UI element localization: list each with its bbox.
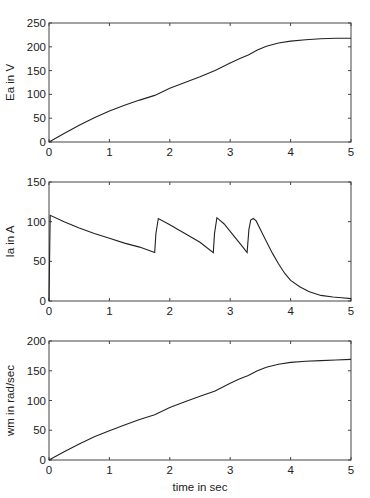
plot-ia: 012345050100150Ia in A: [4, 176, 354, 317]
x-tick-label: 3: [227, 305, 233, 317]
x-tick-label: 1: [106, 464, 112, 476]
plot-wm: 012345050100150200wm in rad/sec: [4, 335, 354, 476]
y-tick-label: 150: [27, 365, 46, 377]
plot-frame: [49, 341, 351, 460]
x-tick-label: 2: [167, 305, 173, 317]
y-tick-label: 250: [27, 17, 46, 29]
y-axis-label: Ia in A: [4, 225, 16, 257]
x-tick-label: 3: [227, 146, 233, 158]
y-tick-label: 150: [27, 65, 46, 77]
x-tick-label: 0: [46, 146, 52, 158]
y-tick-label: 50: [33, 255, 46, 267]
y-tick-label: 100: [27, 395, 46, 407]
y-tick-label: 0: [40, 136, 46, 148]
series-line-wm: [49, 359, 351, 460]
series-line-ea: [49, 38, 351, 142]
y-axis-label: Ea in V: [4, 64, 16, 101]
x-tick-label: 0: [46, 305, 52, 317]
y-tick-label: 0: [40, 295, 46, 307]
x-tick-label: 2: [167, 146, 173, 158]
y-tick-label: 50: [33, 424, 46, 436]
y-axis-label: wm in rad/sec: [4, 365, 16, 437]
x-tick-label: 3: [227, 464, 233, 476]
x-tick-label: 1: [106, 305, 112, 317]
y-tick-label: 200: [27, 335, 46, 347]
x-tick-label: 0: [46, 464, 52, 476]
x-axis-label: time in sec: [173, 481, 228, 493]
figure: 012345050100150200250Ea in V 01234505010…: [0, 0, 370, 498]
x-tick-label: 2: [167, 464, 173, 476]
plot-frame: [49, 23, 351, 142]
x-tick-label: 4: [287, 305, 294, 317]
y-tick-label: 200: [27, 41, 46, 53]
y-tick-label: 100: [27, 216, 46, 228]
x-tick-label: 4: [287, 146, 294, 158]
x-tick-label: 5: [348, 146, 354, 158]
x-tick-label: 5: [348, 305, 354, 317]
x-tick-label: 5: [348, 464, 354, 476]
plot-ea: 012345050100150200250Ea in V: [4, 17, 354, 158]
plot-frame: [49, 182, 351, 301]
series-line-ia: [49, 215, 351, 301]
y-tick-label: 0: [40, 454, 46, 466]
y-tick-label: 100: [27, 88, 46, 100]
y-tick-label: 50: [33, 112, 46, 124]
y-tick-label: 150: [27, 176, 46, 188]
x-tick-label: 4: [287, 464, 294, 476]
x-tick-label: 1: [106, 146, 112, 158]
